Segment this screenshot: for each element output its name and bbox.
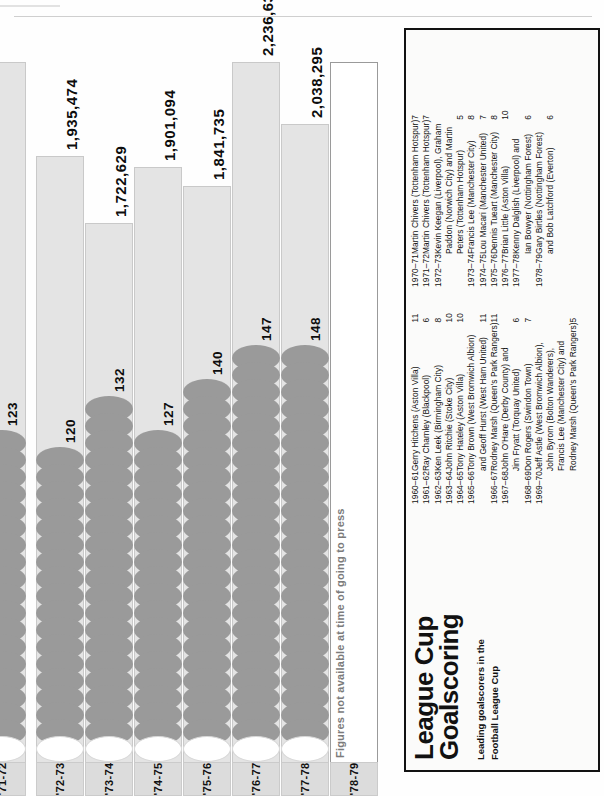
goalscorer-row-cell: and Bob Latchford (Everton) — [545, 120, 556, 254]
goalscorer-row-cell — [534, 313, 545, 322]
goalscorer-row-cell: 1968–69 — [523, 471, 534, 504]
goalscorer-row-cell: 6 — [545, 110, 556, 119]
goalscorer-row-cell: Martin Chivers (Tottenham Hotspur) — [410, 120, 421, 254]
chart-column: 123'71-72 — [0, 22, 26, 796]
goalscorer-row-cell: 1964–65 — [455, 471, 466, 504]
attendance-figure-label: 2,236,636 — [259, 0, 276, 56]
year-label: '78-79 — [348, 762, 360, 795]
goalscorer-row-cell — [500, 313, 511, 322]
goalscorer-row-cell: Francis Lee (Manchester City) and — [556, 322, 567, 471]
goalscorer-row-cell: Ray Charnley (Blackpool) — [421, 322, 432, 471]
no-figures-note: Figures not available at time of going t… — [334, 508, 346, 758]
page-root: 123'71-721201,935,474'72-731321,722,629'… — [0, 0, 604, 796]
goalscorer-row-cell: 8 — [433, 313, 444, 322]
goal-ball-chain — [134, 430, 182, 762]
attendance-figure-label: 1,722,629 — [112, 146, 129, 217]
goalscorer-row-cell: 7 — [410, 110, 421, 119]
goalscorer-row-cell: Paddon (Norwich City) and Martin — [444, 120, 455, 254]
page-title-line2: Goalscoring — [437, 510, 462, 760]
goalscorer-row-cell: 6 — [523, 110, 534, 119]
goalscorer-row-cell: Gary Birtles (Nottingham Forest) — [534, 120, 545, 254]
goalscorer-row-cell: Tony Brown (West Bromwich Albion) — [466, 322, 477, 471]
goalscorer-row-cell: Rodney Marsh (Queen's Park Rangers) — [489, 322, 500, 471]
goalscorer-row-cell — [478, 471, 489, 504]
year-label: '74-75 — [152, 762, 164, 795]
goalscorer-row-cell: 1976–77 — [500, 254, 511, 287]
goalscorer-row-cell: 10 — [455, 313, 466, 322]
goalscorer-row-cell: Dennis Tueart (Manchester City) — [489, 120, 500, 254]
attendance-figure-label: 1,935,474 — [63, 79, 80, 150]
goalscorer-row-cell: 1977–78 — [511, 254, 522, 287]
goalscorer-row-cell — [444, 254, 455, 287]
goalscorer-row-cell — [511, 110, 522, 119]
goalscorer-row-cell: 5 — [568, 313, 579, 322]
goal-count-label: 120 — [63, 419, 78, 443]
goal-count-label: 127 — [161, 402, 176, 426]
goalscorer-row-cell: 1971–72 — [421, 254, 432, 287]
year-label-chip: '74-75 — [134, 762, 182, 796]
goalscorer-row-cell: 1962–63 — [433, 471, 444, 504]
goalscorer-row-cell — [466, 313, 477, 322]
goalscorer-row-cell: 10 — [500, 110, 511, 119]
year-label: '76-77 — [250, 762, 262, 795]
attendance-figure-label: 2,038,295 — [308, 47, 325, 118]
goalscorer-row-cell: 1963–64 — [444, 471, 455, 504]
goalscorer-row-cell: Rodney Marsh (Queen's Park Rangers) — [568, 322, 579, 471]
goalscorer-row-cell: Ken Leek (Birmingham City) — [433, 322, 444, 471]
goalscorer-row-cell: 11 — [489, 313, 500, 322]
goal-ball-chain — [232, 345, 280, 762]
goalscorer-row-cell: 6 — [511, 313, 522, 322]
goalscorer-row-cell: 1969–70 — [534, 471, 545, 504]
goalscorer-row-cell: 1965–66 — [466, 471, 477, 504]
goalscorer-row-cell: 1974–75 — [478, 254, 489, 287]
panel-title-block: League Cup Goalscoring Leading goalscore… — [412, 510, 502, 760]
goalscorer-row-cell — [556, 313, 567, 322]
chart-column: Figures not available at time of going t… — [330, 22, 378, 796]
goal-count-label: 123 — [5, 402, 20, 426]
goalscorer-row-cell: 5 — [455, 110, 466, 119]
year-label-chip: '73-74 — [85, 762, 133, 796]
page-subtitle-line2: Football League Cup — [488, 510, 502, 760]
year-label: '73-74 — [103, 762, 115, 795]
goal-count-label: 140 — [210, 351, 225, 375]
goalscorer-row-cell: 7 — [421, 110, 432, 119]
goal-count-label: 148 — [308, 317, 323, 341]
goal-count-label: 147 — [259, 317, 274, 341]
league-cup-chart: 123'71-721201,935,474'72-731321,722,629'… — [0, 22, 400, 796]
page-subtitle-line1: Leading goalscorers in the — [474, 510, 488, 760]
goalscorers-columns: 1960–611961–621962–631963–641964–651965–… — [410, 84, 579, 504]
goalscorer-row-cell — [534, 110, 545, 119]
goal-ball-chain — [183, 379, 231, 762]
goal-ball — [183, 736, 231, 762]
goalscorer-row-cell: 1970–71 — [410, 254, 421, 287]
goalscorers-column-right: 1970–711971–721972–73 1973–741974–751975… — [410, 110, 579, 287]
goalscorer-row-cell: and Geoff Hurst (West Ham United) — [478, 322, 489, 471]
goalscorer-row-cell: 1967–68 — [500, 471, 511, 504]
goalscorer-row-cell: Brian Little (Aston Villa) — [500, 120, 511, 254]
goalscorer-row-cell — [545, 313, 556, 322]
goal-ball — [85, 736, 133, 762]
goalscorers-column-left: 1960–611961–621962–631963–641964–651965–… — [410, 313, 579, 504]
goalscorer-row-cell: Jim Fryatt (Torquay United) — [511, 322, 522, 471]
goalscorer-row-cell: 1972–73 — [433, 254, 444, 287]
goalscorer-row-cell: 1961–62 — [421, 471, 432, 504]
year-label: '71-72 — [0, 762, 8, 795]
goal-ball-chain — [85, 396, 133, 762]
goalscorer-row-cell: Martin Chivers (Tottenham Hotspur) — [421, 120, 432, 254]
goalscorer-row-cell: 1978–79 — [534, 254, 545, 287]
scan-rule-line-corner — [0, 5, 60, 7]
goalscorer-row-cell: 1975–76 — [489, 254, 500, 287]
goalscorer-row-cell: Kevin Keegan (Liverpool), Graham — [433, 120, 444, 254]
goalscorer-row-cell: 8 — [489, 110, 500, 119]
chart-column: 1321,722,629'73-74 — [85, 22, 133, 796]
goalscorer-row-cell — [545, 471, 556, 504]
attendance-figure-label: 1,901,094 — [161, 90, 178, 161]
goalscorer-row-cell: John Byrom (Bolton Wanderers), — [545, 322, 556, 471]
chart-column: 1201,935,474'72-73 — [36, 22, 84, 796]
goalscorer-row-cell: Kenny Dalglish (Liverpool) and — [511, 120, 522, 254]
goalscorer-row-cell: Tony Hateley (Aston Villa) — [455, 322, 466, 471]
goalscorer-row-cell — [511, 471, 522, 504]
chart-column: 1271,901,094'74-75 — [134, 22, 182, 796]
goalscorer-row-cell — [545, 254, 556, 287]
scan-rule-line — [14, 16, 592, 17]
